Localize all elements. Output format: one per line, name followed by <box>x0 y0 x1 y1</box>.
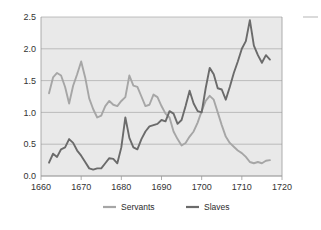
y-tick-label: 1.5 <box>23 76 36 86</box>
y-tick-label: 0.0 <box>23 171 36 181</box>
legend-label-slaves: Slaves <box>204 202 230 212</box>
x-tick-label: 1660 <box>31 182 51 192</box>
x-tick-label: 1680 <box>111 182 131 192</box>
x-tick-label: 1710 <box>232 182 252 192</box>
y-tick-label: 0.5 <box>23 139 36 149</box>
y-tick-label: 2.0 <box>23 44 36 54</box>
y-tick-label: 1.0 <box>23 108 36 118</box>
x-tick-label: 1690 <box>151 182 171 192</box>
x-tick-label: 1670 <box>71 182 91 192</box>
x-tick-label: 1700 <box>192 182 212 192</box>
legend-label-servants: Servants <box>121 202 155 212</box>
y-tick-label: 2.5 <box>23 12 36 22</box>
line-chart: 0.00.51.01.52.02.5 166016701680169017001… <box>0 0 321 230</box>
x-tick-label: 1720 <box>272 182 292 192</box>
